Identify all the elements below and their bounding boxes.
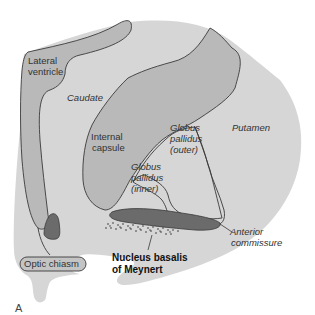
label-internal-capsule: Internal capsule bbox=[91, 131, 125, 153]
panel-label: A bbox=[15, 302, 23, 314]
label-lateral-ventricle: Lateral ventricle bbox=[28, 55, 63, 77]
label-caudate: Caudate bbox=[67, 92, 103, 103]
label-optic-chiasm: Optic chiasm bbox=[24, 258, 79, 269]
label-anterior-commissure: Anterior commissure bbox=[229, 226, 282, 248]
label-putamen: Putamen bbox=[232, 122, 270, 133]
basal-forebrain-diagram: Lateral ventricle Caudate Internal capsu… bbox=[0, 0, 315, 315]
